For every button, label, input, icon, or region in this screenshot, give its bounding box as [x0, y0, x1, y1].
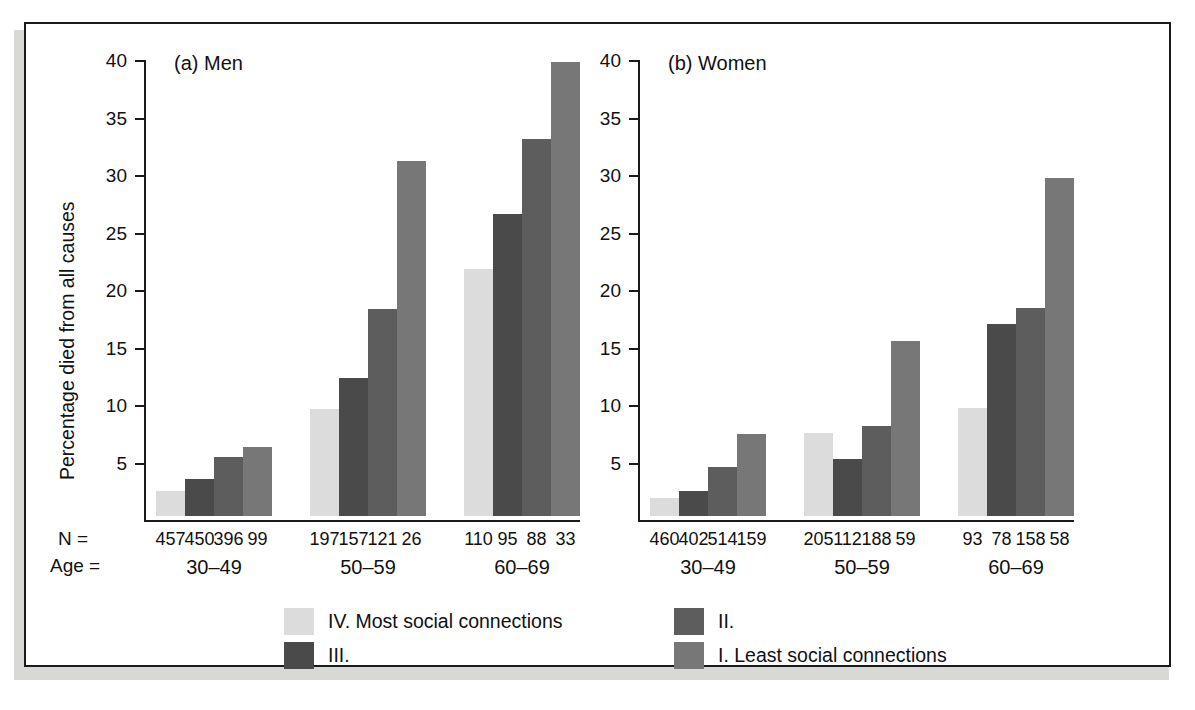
y-tick-a-40 [135, 60, 144, 62]
age-label: 60–69 [494, 556, 550, 579]
y-tick-b-15 [629, 348, 638, 350]
n-value: 78 [991, 529, 1011, 550]
panel-title-b: (b) Women [668, 52, 767, 75]
legend-item-iv: IV. Most social connections [284, 608, 674, 635]
y-tick-label-a-30: 30 [93, 165, 127, 187]
bar [804, 433, 833, 516]
n-value: 188 [861, 529, 891, 550]
panel-title-a: (a) Men [174, 52, 243, 75]
legend-label-ii: II. [718, 610, 734, 633]
n-value: 460 [649, 529, 679, 550]
figure-page: (a) Men5101520253035404574503969930–4919… [24, 22, 1171, 667]
legend-label-i: I. Least social connections [718, 644, 947, 667]
n-value: 110 [464, 529, 493, 550]
y-axis-a [144, 60, 146, 522]
y-tick-a-35 [135, 118, 144, 120]
n-value: 95 [497, 529, 517, 550]
x-axis-a [144, 520, 580, 522]
n-value: 59 [895, 529, 915, 550]
y-tick-label-b-5: 5 [587, 453, 621, 475]
y-tick-a-30 [135, 175, 144, 177]
bar [833, 459, 862, 517]
y-tick-b-10 [629, 405, 638, 407]
n-value: 197 [309, 529, 339, 550]
legend-swatch-iii [284, 642, 314, 669]
y-tick-label-b-15: 15 [587, 338, 621, 360]
n-value: 157 [338, 529, 368, 550]
bar [464, 269, 493, 516]
n-value: 402 [678, 529, 708, 550]
y-tick-label-b-30: 30 [587, 165, 621, 187]
y-tick-b-20 [629, 290, 638, 292]
legend-label-iv: IV. Most social connections [328, 610, 563, 633]
bar [737, 434, 766, 516]
age-label: 30–49 [186, 556, 242, 579]
y-tick-label-a-20: 20 [93, 280, 127, 302]
legend-row-2: III. I. Least social connections [284, 638, 984, 672]
n-value: 112 [833, 529, 862, 550]
bar [1045, 178, 1074, 516]
panel-a: (a) Men5101520253035404574503969930–4919… [26, 24, 626, 665]
bar [243, 447, 272, 516]
legend-label-iii: III. [328, 644, 350, 667]
legend-swatch-ii [674, 608, 704, 635]
n-value: 158 [1015, 529, 1045, 550]
bar [987, 324, 1016, 516]
n-value: 159 [736, 529, 766, 550]
age-label: 50–59 [834, 556, 890, 579]
y-tick-label-a-35: 35 [93, 108, 127, 130]
bar [708, 467, 737, 516]
bar [339, 378, 368, 516]
bar [891, 341, 920, 516]
chart-legend: IV. Most social connections II. III. I. … [284, 604, 984, 672]
y-axis-label: Percentage died from all causes [56, 201, 79, 480]
n-value: 26 [401, 529, 421, 550]
y-tick-a-10 [135, 405, 144, 407]
y-tick-a-5 [135, 463, 144, 465]
n-value: 450 [184, 529, 214, 550]
bar [368, 309, 397, 516]
y-tick-b-40 [629, 60, 638, 62]
y-tick-label-a-40: 40 [93, 50, 127, 72]
y-tick-b-30 [629, 175, 638, 177]
legend-item-iii: III. [284, 642, 674, 669]
n-value: 58 [1049, 529, 1069, 550]
y-tick-a-20 [135, 290, 144, 292]
bar [551, 62, 580, 516]
n-value: 514 [707, 529, 737, 550]
y-tick-a-25 [135, 233, 144, 235]
y-tick-b-35 [629, 118, 638, 120]
age-label: 60–69 [988, 556, 1044, 579]
y-tick-b-5 [629, 463, 638, 465]
n-value: 457 [155, 529, 185, 550]
n-value: 121 [367, 529, 397, 550]
bar [493, 214, 522, 516]
y-tick-label-a-5: 5 [93, 453, 127, 475]
y-axis-b [638, 60, 640, 522]
bar [862, 426, 891, 516]
legend-swatch-i [674, 642, 704, 669]
y-tick-label-b-25: 25 [587, 223, 621, 245]
n-value: 33 [555, 529, 575, 550]
y-tick-b-25 [629, 233, 638, 235]
bar [650, 498, 679, 516]
bar [679, 491, 708, 516]
y-tick-label-b-10: 10 [587, 395, 621, 417]
n-value: 93 [962, 529, 982, 550]
y-tick-a-15 [135, 348, 144, 350]
legend-swatch-iv [284, 608, 314, 635]
y-tick-label-b-20: 20 [587, 280, 621, 302]
n-value: 99 [247, 529, 267, 550]
bar [310, 409, 339, 516]
bar [397, 161, 426, 516]
n-value: 88 [526, 529, 546, 550]
bar [156, 491, 185, 516]
n-value: 205 [803, 529, 833, 550]
y-tick-label-b-40: 40 [587, 50, 621, 72]
n-value: 396 [213, 529, 243, 550]
age-label: 30–49 [680, 556, 736, 579]
n-row-key: N = [58, 528, 88, 550]
bar [1016, 308, 1045, 516]
bar [185, 479, 214, 516]
bar [958, 408, 987, 516]
